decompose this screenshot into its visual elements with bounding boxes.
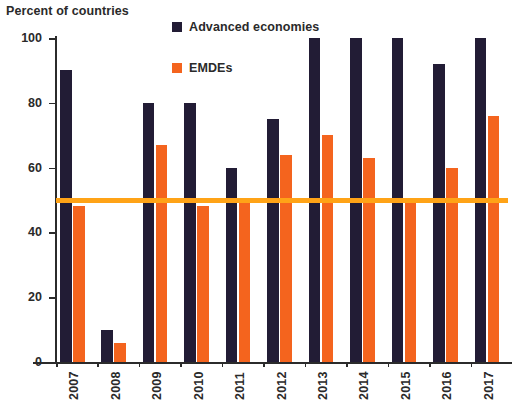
x-axis-tick-label: 2017 xyxy=(482,371,496,400)
legend-label-advanced-economies: Advanced economies xyxy=(189,20,319,34)
x-axis-tick-label: 2009 xyxy=(150,371,164,400)
x-axis-tick-mark xyxy=(388,362,390,367)
bar-emdes xyxy=(73,206,85,362)
x-axis-tick-label: 2007 xyxy=(67,371,81,400)
bar-advanced-economies xyxy=(433,64,445,362)
y-axis-title: Percent of countries xyxy=(6,4,129,18)
y-axis-tick-label: 20 xyxy=(8,290,42,304)
x-axis-tick-label: 2008 xyxy=(109,371,123,400)
bar-emdes xyxy=(239,200,251,362)
bar-emdes xyxy=(114,343,126,362)
bar-emdes xyxy=(488,116,500,362)
x-axis-tick-mark xyxy=(222,362,224,367)
reference-line-50 xyxy=(56,198,508,203)
x-axis-tick-label: 2015 xyxy=(399,371,413,400)
x-axis-tick-mark xyxy=(139,362,141,367)
y-axis-tick-label: 100 xyxy=(8,31,42,45)
x-axis-tick-mark xyxy=(305,362,307,367)
x-axis-line xyxy=(33,362,512,364)
y-axis-tick-mark xyxy=(49,38,55,40)
bar-emdes xyxy=(156,145,168,362)
y-axis-tick-mark xyxy=(49,103,55,105)
x-axis-tick-label: 2016 xyxy=(440,371,454,400)
x-axis-tick-mark xyxy=(56,362,58,367)
y-axis-tick-mark xyxy=(49,297,55,299)
x-axis-tick-mark xyxy=(471,362,473,367)
plot-area xyxy=(56,38,512,362)
y-axis-tick-label: 60 xyxy=(8,161,42,175)
y-axis-tick-label: 0 xyxy=(8,355,42,369)
x-axis-tick-mark xyxy=(97,362,99,367)
bar-chart: Percent of countries Advanced economies … xyxy=(0,0,520,404)
x-axis-tick-mark xyxy=(346,362,348,367)
x-axis-tick-label: 2014 xyxy=(357,371,371,400)
x-axis-tick-mark xyxy=(180,362,182,367)
bar-advanced-economies xyxy=(143,103,155,362)
y-axis-tick-label: 80 xyxy=(8,96,42,110)
x-axis-tick-label: 2010 xyxy=(192,371,206,400)
legend-item-advanced-economies: Advanced economies xyxy=(172,20,319,34)
y-axis-tick-label: 40 xyxy=(8,225,42,239)
x-axis-tick-mark xyxy=(429,362,431,367)
bar-emdes xyxy=(197,206,209,362)
bar-advanced-economies xyxy=(60,70,72,362)
bar-emdes xyxy=(280,155,292,362)
x-axis-tick-label: 2013 xyxy=(316,371,330,400)
y-axis-tick-mark xyxy=(49,168,55,170)
square-marker-icon xyxy=(172,22,182,32)
y-axis-tick-mark xyxy=(49,232,55,234)
bar-advanced-economies xyxy=(267,119,279,362)
x-axis-tick-label: 2011 xyxy=(233,372,247,400)
bar-emdes xyxy=(322,135,334,362)
bar-advanced-economies xyxy=(184,103,196,362)
y-axis-tick-mark xyxy=(49,362,55,364)
x-axis-tick-label: 2012 xyxy=(275,371,289,400)
bar-emdes xyxy=(363,158,375,362)
bar-advanced-economies xyxy=(101,330,113,362)
x-axis-tick-mark xyxy=(263,362,265,367)
bar-emdes xyxy=(405,200,417,362)
